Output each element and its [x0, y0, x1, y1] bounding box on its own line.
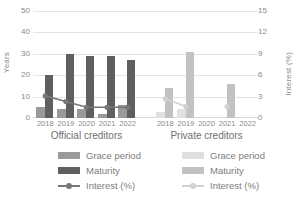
legend-swatch-grace-official	[58, 152, 80, 159]
legend-swatch-maturity-private	[182, 167, 204, 174]
y-tick-right: 0	[258, 114, 274, 122]
group-title-official: Official creditors	[35, 130, 138, 141]
legend-item-grace-private[interactable]: Grace period	[182, 148, 265, 163]
bar-grace-period[interactable]	[98, 114, 107, 118]
legend-label-grace-private: Grace period	[210, 150, 265, 161]
x-tick-label: 2019	[56, 119, 77, 128]
legend-label-grace-official: Grace period	[86, 150, 141, 161]
legend-swatch-interest-private	[182, 182, 204, 189]
bar-grace-period[interactable]	[36, 107, 45, 118]
y-tick-left: 30	[14, 50, 30, 58]
legend-item-grace-official[interactable]: Grace period	[58, 148, 141, 163]
x-axis-labels-private: 20182019202020212022	[155, 119, 258, 129]
x-tick-label: 2020	[76, 119, 97, 128]
bar-slot	[217, 11, 238, 118]
group-title-private: Private creditors	[155, 130, 258, 141]
y-tick-right: 3	[258, 93, 274, 101]
bar-maturity[interactable]	[165, 88, 173, 118]
bar-grace-period[interactable]	[177, 109, 186, 118]
x-axis-labels-official: 20182019202020212022	[35, 119, 138, 129]
legend-item-interest-official[interactable]: Interest (%)	[58, 178, 141, 193]
bar-maturity[interactable]	[66, 54, 74, 118]
bar-group-official	[35, 11, 138, 118]
bar-slot	[196, 11, 217, 118]
bar-grace-period[interactable]	[57, 109, 66, 118]
x-tick-label: 2018	[35, 119, 56, 128]
legend-item-maturity-official[interactable]: Maturity	[58, 163, 141, 178]
legend-label-interest-official: Interest (%)	[86, 180, 135, 191]
x-tick-label: 2020	[196, 119, 217, 128]
legend-swatch-maturity-official	[58, 167, 80, 174]
y-tick-right: 9	[258, 50, 274, 58]
bar-maturity[interactable]	[227, 84, 235, 118]
bar-maturity[interactable]	[186, 52, 194, 118]
y-axis-left-ticks: 01020304050	[12, 0, 30, 198]
x-tick-label: 2018	[155, 119, 176, 128]
bar-slot	[237, 11, 258, 118]
bar-slot	[76, 11, 97, 118]
y-tick-left: 0	[14, 114, 30, 122]
x-tick-label: 2022	[117, 119, 138, 128]
bar-group-private	[155, 11, 258, 118]
bar-slot	[117, 11, 138, 118]
y-axis-right-title: Interest (%)	[284, 52, 293, 96]
y-tick-left: 20	[14, 71, 30, 79]
bar-slot	[35, 11, 56, 118]
y-tick-right: 15	[258, 7, 274, 15]
plot-area	[33, 11, 258, 118]
legend-label-interest-private: Interest (%)	[210, 180, 259, 191]
y-tick-right: 6	[258, 71, 274, 79]
x-tick-label: 2021	[97, 119, 118, 128]
bar-maturity[interactable]	[86, 56, 94, 118]
legend-private: Grace period Maturity Interest (%)	[182, 148, 265, 193]
y-tick-left: 10	[14, 93, 30, 101]
y-tick-left: 50	[14, 7, 30, 15]
legend-official: Grace period Maturity Interest (%)	[58, 148, 141, 193]
chart-canvas: Years Interest (%) 01020304050 03691215 …	[0, 0, 294, 198]
y-tick-right: 12	[258, 28, 274, 36]
bar-slot	[97, 11, 118, 118]
bar-maturity[interactable]	[45, 75, 53, 118]
bar-maturity[interactable]	[127, 60, 135, 118]
x-tick-label: 2022	[237, 119, 258, 128]
bar-grace-period[interactable]	[118, 105, 127, 118]
legend-item-maturity-private[interactable]: Maturity	[182, 163, 265, 178]
x-tick-label: 2021	[217, 119, 238, 128]
bar-grace-period[interactable]	[77, 109, 86, 118]
legend-label-maturity-official: Maturity	[86, 165, 120, 176]
bar-maturity[interactable]	[107, 56, 115, 118]
legend-swatch-interest-official	[58, 182, 80, 189]
y-axis-left-title: Years	[2, 52, 11, 73]
legend-item-interest-private[interactable]: Interest (%)	[182, 178, 265, 193]
bar-grace-period[interactable]	[156, 112, 165, 118]
y-tick-left: 40	[14, 28, 30, 36]
bar-slot	[155, 11, 176, 118]
x-tick-label: 2019	[176, 119, 197, 128]
bar-slot	[176, 11, 197, 118]
legend-swatch-grace-private	[182, 152, 204, 159]
legend-label-maturity-private: Maturity	[210, 165, 244, 176]
bar-slot	[56, 11, 77, 118]
